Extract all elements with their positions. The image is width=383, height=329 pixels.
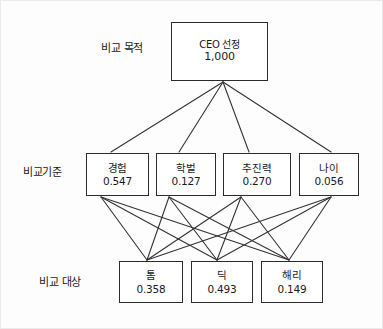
alternative-node-2-label: 해리 [282, 269, 301, 281]
link-goal-to-criterion-0 [111, 82, 223, 152]
alternative-node-1: 딕 0.493 [191, 261, 253, 303]
criterion-node-2: 추진력 0.270 [223, 153, 291, 196]
criterion-node-1-value: 0.127 [171, 175, 200, 187]
link-criterion-0-to-alt-2 [101, 197, 289, 260]
link-criterion-2-to-alt-0 [147, 197, 241, 260]
alternative-node-2: 해리 0.149 [261, 261, 323, 303]
criterion-node-0-value: 0.547 [103, 175, 132, 187]
goal-node-label: CEO 선정 [199, 39, 240, 51]
link-criterion-2-to-alt-2 [241, 197, 289, 260]
goal-node-value: 1,000 [204, 51, 235, 64]
alternative-node-0-label: 톰 [146, 269, 156, 281]
criterion-node-3: 나이 0.056 [299, 153, 359, 196]
alternative-node-0: 톰 0.358 [119, 261, 183, 303]
alternative-node-1-label: 딕 [217, 269, 227, 281]
row-label-criteria: 비교기준 [23, 163, 62, 179]
link-criterion-3-to-alt-2 [289, 197, 331, 260]
alternative-node-1-value: 0.493 [207, 283, 236, 295]
criterion-node-1: 학벌 0.127 [156, 153, 216, 196]
link-criterion-1-to-alt-2 [169, 197, 289, 260]
link-goal-to-criterion-1 [179, 82, 223, 152]
link-criterion-0-to-alt-0 [101, 197, 147, 260]
link-criterion-2-to-alt-1 [217, 197, 241, 260]
link-criterion-3-to-alt-0 [147, 197, 331, 260]
link-criterion-1-to-alt-1 [169, 197, 217, 260]
row-label-alternatives: 비교 대상 [39, 273, 81, 289]
criterion-node-0: 경험 0.547 [86, 153, 149, 196]
link-goal-to-criterion-2 [223, 82, 249, 152]
link-criterion-0-to-alt-1 [101, 197, 217, 260]
criterion-node-0-label: 경험 [108, 162, 127, 174]
criterion-node-1-label: 학벌 [176, 162, 195, 174]
row-label-goal: 비교 목적 [101, 39, 143, 55]
diagram-canvas: 비교 목적 비교기준 비교 대상 CEO 선정 1,000 경험 0.547 학… [0, 0, 383, 329]
alternative-node-0-value: 0.358 [136, 283, 165, 295]
goal-node: CEO 선정 1,000 [171, 22, 268, 81]
criterion-node-3-value: 0.056 [314, 175, 343, 187]
criterion-node-2-label: 추진력 [242, 162, 271, 174]
alternative-node-2-value: 0.149 [277, 283, 306, 295]
criterion-node-3-label: 나이 [319, 162, 338, 174]
link-criterion-3-to-alt-1 [217, 197, 331, 260]
link-criterion-1-to-alt-0 [147, 197, 169, 260]
criterion-node-2-value: 0.270 [242, 175, 271, 187]
link-goal-to-criterion-3 [223, 82, 331, 152]
